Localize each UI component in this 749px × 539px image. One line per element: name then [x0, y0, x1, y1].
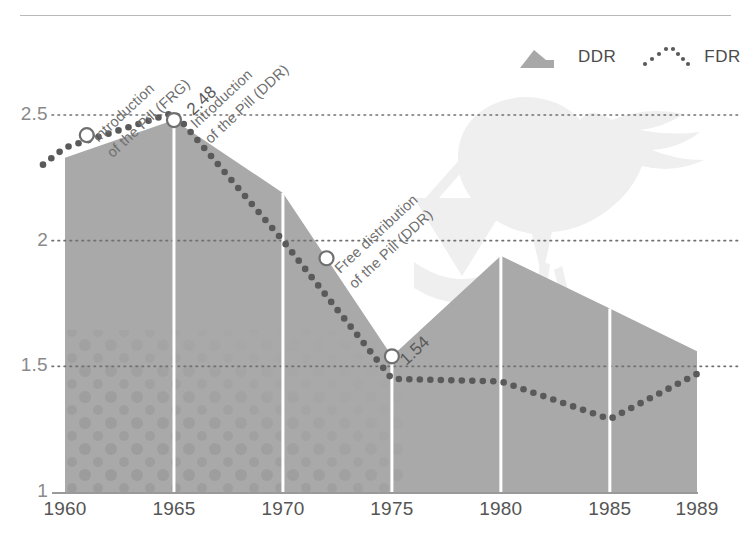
x-axis-baseline	[52, 492, 698, 494]
x-tick-label: 1975	[357, 498, 427, 520]
y-tick-label: 1.5	[2, 354, 48, 376]
area-dot-texture	[65, 330, 405, 492]
y-tick-label: 2	[2, 229, 48, 251]
x-tick-label: 1980	[466, 498, 536, 520]
x-tick-label: 1970	[248, 498, 318, 520]
x-tick-label: 1985	[575, 498, 645, 520]
x-tick-label: 1965	[139, 498, 209, 520]
y-tick-label: 2.5	[2, 103, 48, 125]
x-tick-label: 1989	[662, 498, 732, 520]
fertility-chart-figure: DDR FDR	[0, 0, 749, 539]
x-tick-label: 1960	[30, 498, 100, 520]
